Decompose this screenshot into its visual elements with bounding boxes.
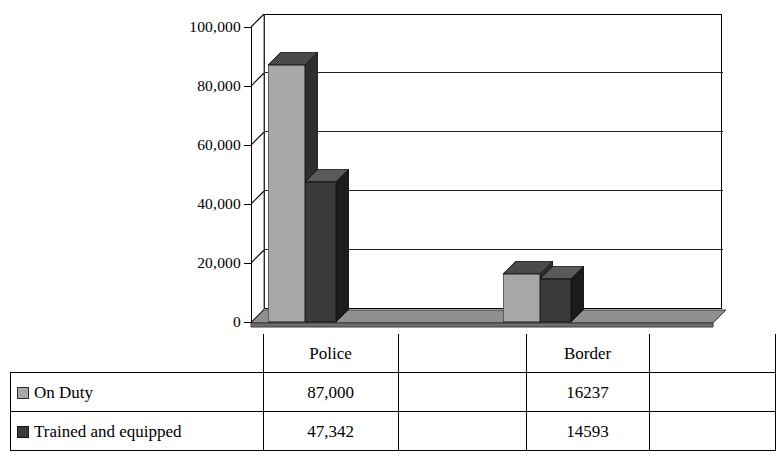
header-border: Border	[526, 334, 649, 373]
bar-chart-plot: 100,000 80,000 60,000 40,000 20,000	[0, 0, 733, 335]
header-blank-1	[398, 334, 526, 373]
y-tick-label-100000: 100,000	[189, 19, 241, 35]
table-header-row: Police Border	[11, 334, 776, 373]
bar-police-trained-and-equipped	[305, 169, 349, 323]
cell-on-duty-police: 87,000	[263, 373, 398, 412]
cell-on-duty-border: 16237	[526, 373, 649, 412]
legend-cell-trained-and-equipped: Trained and equipped	[11, 412, 264, 451]
y-tick-connector-80000	[251, 73, 265, 87]
y-tick-0	[244, 322, 252, 323]
cell-trained-border: 14593	[526, 412, 649, 451]
y-tick-label-80000: 80,000	[197, 78, 241, 94]
y-tick-connector-60000	[251, 132, 265, 146]
legend-cell-on-duty: On Duty	[11, 373, 264, 412]
cell-trained-blank-2	[649, 412, 775, 451]
y-tick-connector-100000	[251, 14, 265, 28]
plot-side-wall	[251, 14, 265, 323]
cell-trained-police: 47,342	[263, 412, 398, 451]
data-table: Police Border On Duty 87,000 16237 Train…	[10, 334, 712, 452]
y-axis-line	[251, 27, 252, 323]
legend-swatch-trained-and-equipped	[17, 426, 29, 438]
y-tick-label-0: 0	[233, 314, 241, 330]
header-police: Police	[263, 334, 398, 373]
legend-swatch-on-duty	[17, 387, 29, 399]
legend-label-on-duty: On Duty	[34, 383, 93, 402]
y-tick-connector-20000	[251, 250, 265, 264]
legend-label-trained-and-equipped: Trained and equipped	[34, 422, 182, 441]
header-legend-cell	[11, 334, 264, 373]
bar-border-trained-and-equipped	[540, 266, 584, 323]
cell-trained-blank-1	[398, 412, 526, 451]
y-tick-label-60000: 60,000	[197, 137, 241, 153]
gridline-60000	[264, 131, 723, 132]
y-tick-connector-40000	[251, 191, 265, 205]
gridline-80000	[264, 72, 723, 73]
header-blank-2	[649, 334, 775, 373]
cell-on-duty-blank-2	[649, 373, 775, 412]
table-row: Trained and equipped 47,342 14593	[11, 412, 776, 451]
y-tick-label-40000: 40,000	[197, 196, 241, 212]
cell-on-duty-blank-1	[398, 373, 526, 412]
table-row: On Duty 87,000 16237	[11, 373, 776, 412]
y-tick-label-20000: 20,000	[197, 255, 241, 271]
